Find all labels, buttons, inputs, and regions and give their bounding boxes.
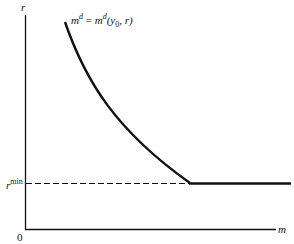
x-axis-label: m [278, 223, 286, 235]
money-demand-diagram: r m 0 rmin md = md(y0, r) [0, 0, 294, 244]
rmin-label: rmin [6, 177, 23, 191]
money-demand-curve [65, 22, 190, 183]
curve-label: md = md(y0, r) [71, 12, 133, 29]
origin-label: 0 [17, 231, 23, 243]
y-axis-label: r [21, 1, 26, 13]
